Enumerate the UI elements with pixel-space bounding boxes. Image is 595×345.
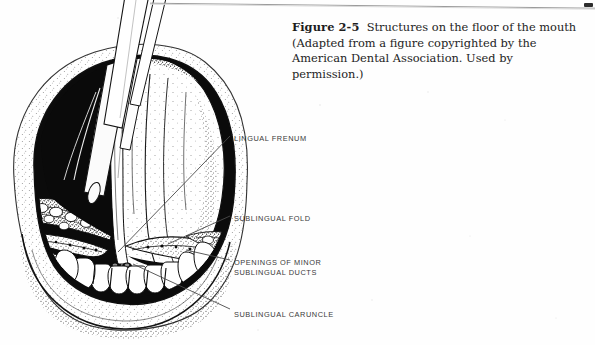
figure-number: Figure 2-5 [292,20,359,34]
label-lingual-frenum: LINGUAL FRENUM [234,134,307,144]
label-sublingual-caruncle: SUBLINGUAL CARUNCLE [234,310,334,320]
leader-caruncle [133,264,230,309]
label-sublingual-fold: SUBLINGUAL FOLD [234,214,311,224]
label-openings-of-minor-sublingual-ducts-line2: SUBLINGUAL DUCTS [234,268,317,278]
leader-sublingual-fold [168,216,230,244]
leader-openings-ducts [186,250,230,260]
label-openings-of-minor-sublingual-ducts-line1: OPENINGS OF MINOR [234,258,321,268]
figure-page: Figure 2-5 Structures on the floor of th… [0,0,595,345]
scan-corner-mark [584,3,593,7]
leader-lingual-frenum [118,136,230,252]
figure-caption: Figure 2-5 Structures on the floor of th… [292,20,582,82]
